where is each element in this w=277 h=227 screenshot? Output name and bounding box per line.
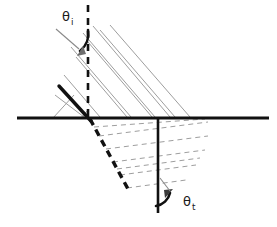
leader-line-incident xyxy=(56,29,79,49)
hatch-line xyxy=(76,57,127,117)
figure-canvas: θ i θ t xyxy=(0,0,277,227)
hatch-line xyxy=(127,193,179,227)
hatch-line xyxy=(67,137,119,194)
hatch-line xyxy=(93,26,170,117)
theta-transmitted-subscript: t xyxy=(192,202,196,212)
hatch-line-dashed xyxy=(127,180,186,188)
hatch-line xyxy=(100,30,175,117)
hatch-line xyxy=(82,151,134,208)
theta-incident-symbol: θ xyxy=(62,9,70,24)
hatch-line xyxy=(97,165,149,222)
incident-ray xyxy=(59,86,91,121)
hatch-line xyxy=(83,33,155,117)
optics-refraction-figure: θ i θ t xyxy=(0,0,277,227)
hatch-line xyxy=(110,25,190,117)
transmitted-beam-hatching xyxy=(94,119,208,188)
hatch-line-dashed xyxy=(94,119,205,127)
theta-transmitted-symbol: θ xyxy=(183,194,191,209)
leader-line-transmitted xyxy=(160,178,170,191)
hatch-line xyxy=(157,221,209,227)
label-theta-transmitted: θ t xyxy=(183,194,196,212)
label-theta-incident: θ i xyxy=(62,9,74,27)
transmitted-ray xyxy=(90,119,128,189)
theta-incident-subscript: i xyxy=(71,17,74,27)
hatch-line xyxy=(142,207,194,227)
hatch-line-dashed xyxy=(99,122,208,136)
